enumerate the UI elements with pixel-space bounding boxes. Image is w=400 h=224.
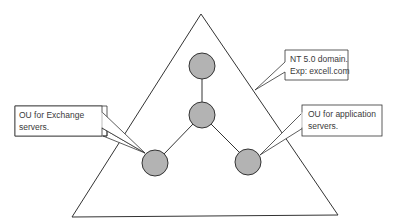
- callout-application: OU for application servers.: [260, 105, 382, 155]
- callout-domain-line2: Exp: excell.com: [290, 66, 350, 76]
- node-top: [189, 53, 215, 79]
- node-middle: [189, 102, 215, 128]
- domain-diagram: NT 5.0 domain. Exp: excell.com OU for Ex…: [0, 0, 400, 224]
- callout-exchange: OU for Exchange servers.: [15, 106, 145, 153]
- connector-middle-right: [211, 124, 240, 153]
- callout-domain: NT 5.0 domain. Exp: excell.com: [255, 50, 350, 90]
- connector-middle-left: [164, 124, 193, 154]
- callout-domain-line1: NT 5.0 domain.: [290, 54, 348, 64]
- callout-exchange-line1: OU for Exchange: [19, 110, 84, 120]
- callout-application-pointer: [260, 112, 303, 155]
- callout-application-line2: servers.: [308, 121, 338, 131]
- node-exchange-ou: [142, 150, 168, 176]
- callout-application-line1: OU for application: [308, 109, 376, 119]
- node-application-ou: [235, 149, 261, 175]
- callout-exchange-line2: servers.: [19, 122, 49, 132]
